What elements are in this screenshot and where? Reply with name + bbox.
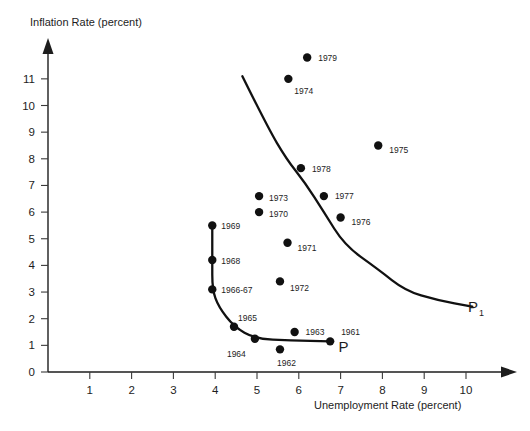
y-tick-label: 3: [29, 286, 35, 298]
data-point-marker: [208, 256, 216, 264]
y-axis-group: 01234567891011: [22, 38, 53, 378]
x-tick-label: 7: [337, 384, 343, 396]
phillips-curve-chart: 01234567891011 12345678910 Inflation Rat…: [0, 0, 530, 431]
data-point-marker: [208, 221, 216, 229]
y-axis-arrowhead: [43, 38, 54, 54]
data-point: 1963: [290, 327, 324, 337]
x-axis-ticks: 12345678910: [87, 372, 473, 396]
data-point: 1970: [255, 208, 288, 219]
data-point-marker: [320, 192, 328, 200]
data-point-marker: [290, 328, 298, 336]
x-axis-title: Unemployment Rate (percent): [314, 399, 461, 411]
data-point-label: 1979: [318, 53, 337, 63]
data-point-marker: [374, 141, 382, 149]
data-point: 1977: [320, 191, 354, 201]
x-tick-label: 2: [128, 384, 134, 396]
data-point-label: 1973: [269, 193, 288, 203]
data-point-label: 1965: [238, 313, 257, 323]
curve-label-subscript: 1: [479, 308, 484, 318]
x-axis-group: 12345678910: [48, 367, 517, 397]
y-tick-label: 4: [29, 259, 36, 271]
data-point-marker: [284, 75, 292, 83]
data-point: 1973: [255, 192, 288, 203]
curves-layer: [212, 76, 472, 341]
data-point: 1974: [284, 75, 313, 96]
x-tick-label: 3: [170, 384, 176, 396]
data-point: 1962: [276, 345, 296, 368]
curve-label-p1: P1: [468, 298, 484, 318]
curve-labels-layer: PP1: [339, 298, 485, 355]
x-tick-label: 9: [421, 384, 427, 396]
data-point-label: 1968: [221, 256, 240, 266]
y-axis-title: Inflation Rate (percent): [30, 16, 142, 28]
chart-canvas: 01234567891011 12345678910 Inflation Rat…: [0, 0, 530, 431]
x-tick-label: 10: [460, 384, 473, 396]
y-tick-label: 7: [29, 179, 35, 191]
y-tick-label: 6: [29, 206, 35, 218]
y-tick-label: 2: [29, 313, 35, 325]
data-point-marker: [283, 239, 291, 247]
data-point-marker: [230, 322, 238, 330]
data-point: 1975: [374, 141, 408, 155]
data-point-label: 1974: [294, 86, 313, 96]
x-tick-label: 4: [212, 384, 219, 396]
data-point-label: 1971: [298, 243, 317, 253]
data-point-label: 1976: [352, 217, 371, 227]
data-point-label: 1962: [277, 358, 296, 368]
data-point-label: 1977: [335, 191, 354, 201]
data-point-marker: [251, 334, 259, 342]
data-point-label: 1975: [389, 145, 408, 155]
y-tick-label: 1: [29, 339, 35, 351]
data-point-marker: [255, 192, 263, 200]
data-point-marker: [276, 277, 284, 285]
data-point: 1976: [336, 213, 370, 227]
data-point-label: 1969: [221, 221, 240, 231]
data-point-label: 1972: [290, 283, 309, 293]
x-axis-arrowhead: [501, 367, 517, 378]
data-point-marker: [336, 213, 344, 221]
data-point-label: 1963: [306, 327, 325, 337]
data-point-label: 1961: [341, 327, 360, 337]
x-tick-label: 1: [87, 384, 93, 396]
y-tick-label: 0: [29, 366, 35, 378]
y-tick-label: 10: [22, 100, 35, 112]
data-point-label: 1970: [269, 209, 288, 219]
x-tick-label: 8: [379, 384, 385, 396]
data-point: 1971: [283, 239, 316, 253]
data-point: 1965: [230, 313, 257, 331]
data-point: 1964: [227, 334, 259, 358]
y-tick-label: 11: [23, 73, 35, 85]
data-point-marker: [208, 285, 216, 293]
data-point: 1972: [276, 277, 309, 293]
x-tick-label: 5: [254, 384, 260, 396]
curve-label-p: P: [339, 338, 349, 355]
y-tick-label: 8: [29, 153, 35, 165]
data-point-marker: [255, 208, 263, 216]
data-point-label: 1978: [312, 164, 331, 174]
y-tick-label: 5: [29, 233, 35, 245]
y-axis-ticks: 01234567891011: [22, 73, 48, 378]
data-point-marker: [303, 53, 311, 61]
data-point-label: 1966-67: [221, 285, 252, 295]
curve-p1: [242, 76, 472, 307]
data-point: 1978: [297, 164, 331, 174]
data-point-marker: [326, 337, 334, 345]
y-tick-label: 9: [29, 126, 35, 138]
data-point: 1979: [303, 53, 337, 63]
data-points-layer: 196119621963196419651966-671968196919701…: [208, 53, 408, 369]
data-point-label: 1964: [227, 349, 246, 359]
x-tick-label: 6: [296, 384, 302, 396]
data-point-marker: [276, 345, 284, 353]
data-point-marker: [297, 164, 305, 172]
